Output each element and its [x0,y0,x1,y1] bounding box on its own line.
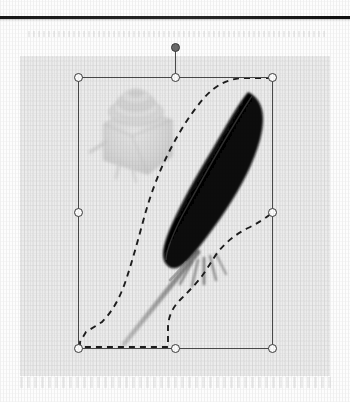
resize-handle-bottom-middle[interactable] [171,344,180,353]
image-canvas[interactable] [20,56,330,376]
scanned-page [0,0,350,402]
resize-handle-middle-right[interactable] [268,208,277,217]
resize-handle-bottom-right[interactable] [268,344,277,353]
page-top-rule-shadow [0,19,350,21]
resize-handle-bottom-left[interactable] [74,344,83,353]
resize-handle-middle-left[interactable] [74,208,83,217]
marching-ants-selection-path[interactable] [20,56,330,376]
page-footer-smudge [20,377,332,388]
page-header-smudge [28,31,328,37]
resize-handle-top-left[interactable] [74,73,83,82]
lasso-path [80,78,272,347]
resize-handle-top-middle[interactable] [171,73,180,82]
resize-handle-top-right[interactable] [268,73,277,82]
rotation-handle[interactable] [171,43,180,52]
